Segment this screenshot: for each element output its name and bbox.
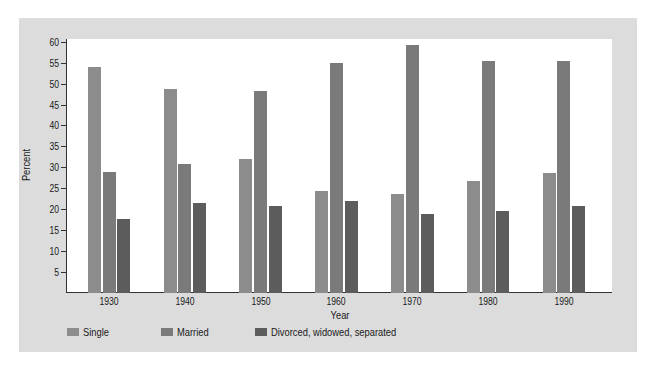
legend-item-married: Married xyxy=(161,325,214,339)
bar-married-1970 xyxy=(406,45,419,293)
y-tick xyxy=(61,167,66,168)
legend-item-single: Single xyxy=(67,325,114,339)
y-tick xyxy=(61,272,66,273)
y-tick-label: 40 xyxy=(43,120,59,130)
bar-single-1940 xyxy=(164,89,177,293)
y-tick xyxy=(61,209,66,210)
y-tick-label: 35 xyxy=(43,141,59,151)
y-tick-label: 60 xyxy=(43,37,59,47)
x-tick-label: 1930 xyxy=(93,295,126,307)
bar-divorced-1930 xyxy=(117,219,130,293)
y-tick xyxy=(61,251,66,252)
x-tick-label: 1980 xyxy=(472,295,505,307)
bar-single-1990 xyxy=(543,173,556,293)
bar-single-1970 xyxy=(391,194,404,293)
bar-divorced-1950 xyxy=(269,206,282,293)
bar-single-1960 xyxy=(315,191,328,293)
x-tick-label: 1960 xyxy=(320,295,353,307)
bar-married-1980 xyxy=(482,61,495,293)
bar-divorced-1960 xyxy=(345,201,358,293)
bar-married-1950 xyxy=(254,91,267,293)
y-tick xyxy=(61,146,66,147)
y-tick xyxy=(61,188,66,189)
bar-married-1940 xyxy=(178,164,191,293)
bar-married-1960 xyxy=(330,63,343,293)
y-tick xyxy=(61,230,66,231)
legend-item-divorced: Divorced, widowed, separated xyxy=(255,325,418,339)
y-axis-title: Percent xyxy=(20,149,32,181)
bar-married-1990 xyxy=(557,61,570,293)
y-tick-label: 50 xyxy=(43,79,59,89)
legend-swatch-divorced xyxy=(255,328,267,336)
y-tick-label: 5 xyxy=(43,267,59,277)
y-tick-label: 25 xyxy=(43,183,59,193)
bar-married-1930 xyxy=(103,172,116,293)
bar-single-1930 xyxy=(88,67,101,293)
legend-label-married: Married xyxy=(177,326,209,338)
y-tick xyxy=(61,105,66,106)
y-tick-label: 15 xyxy=(43,225,59,235)
bar-single-1980 xyxy=(467,181,480,293)
y-tick-label: 55 xyxy=(43,58,59,68)
bar-divorced-1970 xyxy=(421,214,434,293)
y-tick xyxy=(61,42,66,43)
bar-single-1950 xyxy=(239,159,252,293)
y-tick-label: 10 xyxy=(43,246,59,256)
x-tick-label: 1990 xyxy=(547,295,580,307)
x-tick-label: 1950 xyxy=(244,295,277,307)
y-tick-label: 20 xyxy=(43,204,59,214)
legend-swatch-married xyxy=(161,328,173,336)
legend-label-single: Single xyxy=(83,326,109,338)
y-tick-label: 45 xyxy=(43,100,59,110)
x-axis-title: Year xyxy=(331,309,350,321)
legend-label-divorced: Divorced, widowed, separated xyxy=(271,326,396,338)
bar-divorced-1940 xyxy=(193,203,206,293)
y-tick-label: 30 xyxy=(43,162,59,172)
legend-swatch-single xyxy=(67,328,79,336)
bar-divorced-1980 xyxy=(496,211,509,293)
x-tick-label: 1940 xyxy=(168,295,201,307)
bar-divorced-1990 xyxy=(572,206,585,293)
x-tick-label: 1970 xyxy=(396,295,429,307)
y-tick xyxy=(61,63,66,64)
y-tick xyxy=(61,125,66,126)
y-tick xyxy=(61,84,66,85)
